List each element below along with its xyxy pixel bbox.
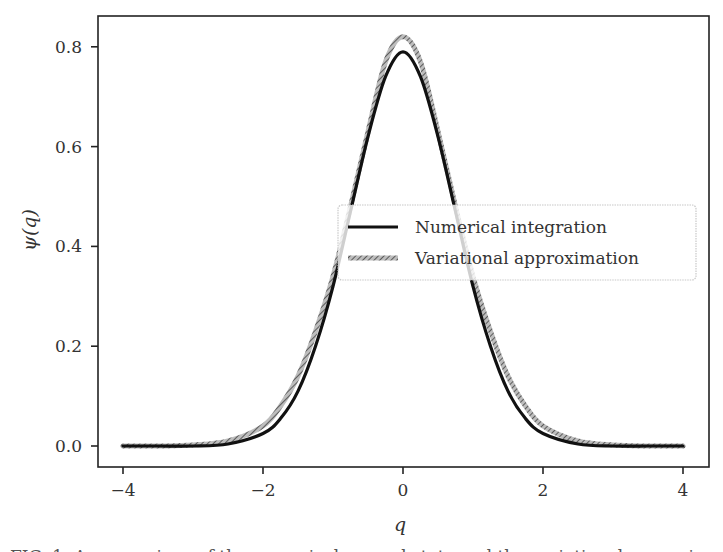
y-tick-label: 0.6: [55, 137, 82, 157]
x-axis-ticks: −4−2024: [110, 467, 688, 500]
legend-label-numerical: Numerical integration: [415, 217, 607, 237]
y-axis-ticks: 0.00.20.40.60.8: [55, 37, 98, 456]
y-tick-label: 0.4: [55, 236, 82, 256]
x-tick-label: −4: [110, 480, 135, 500]
x-tick-label: 0: [398, 480, 409, 500]
x-tick-label: −2: [250, 480, 275, 500]
figure-caption: FIG. 1. A comparison of the numerical gr…: [10, 541, 710, 552]
y-tick-label: 0.0: [55, 436, 82, 456]
legend-label-variational: Variational approximation: [414, 248, 639, 268]
line-chart: −4−2024 0.00.20.40.60.8 Numerical integr…: [0, 0, 723, 552]
x-tick-label: 2: [538, 480, 549, 500]
plot-area: −4−2024 0.00.20.40.60.8 Numerical integr…: [55, 16, 709, 500]
y-tick-label: 0.2: [55, 336, 82, 356]
x-axis-label: q: [394, 513, 406, 535]
y-axis-label: ψ(q): [18, 209, 40, 251]
x-tick-label: 4: [678, 480, 689, 500]
legend: Numerical integrationVariational approxi…: [338, 205, 696, 280]
y-tick-label: 0.8: [55, 37, 82, 57]
